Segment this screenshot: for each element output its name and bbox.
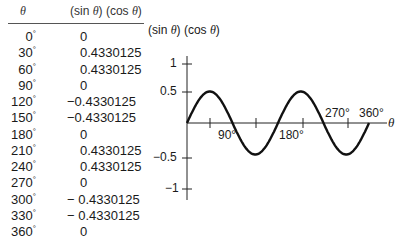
y-axis-title: (sin θ) (cos θ)	[148, 23, 220, 38]
ylabel-cos: ) (cos	[177, 23, 210, 37]
y-tick-0.5: 0.5	[160, 84, 177, 98]
x-label-270: 270°	[325, 106, 350, 120]
x-axis-label: θ	[388, 115, 394, 131]
x-label-180: 180°	[279, 128, 304, 142]
ylabel-sin: (sin	[148, 23, 171, 37]
x-label-360: 360°	[359, 106, 384, 120]
y-tick-1: 1	[170, 56, 177, 70]
ylabel-close: )	[216, 23, 220, 37]
y-tick-neg-1: −1	[165, 181, 179, 195]
y-tick-neg-0.5: −0.5	[153, 150, 177, 164]
x-label-90: 90°	[218, 128, 236, 142]
